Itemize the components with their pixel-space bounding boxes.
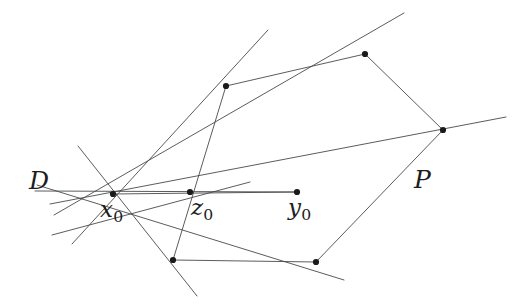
polygon-vertex-right-dot [440,127,446,133]
label-point-x0: x0 [100,198,123,221]
line-extra-lower-left [52,182,250,235]
label-y0-base: y [288,194,301,220]
pencil-of-lines-group [35,13,506,296]
line-through-bottomleft [78,146,197,296]
edge-bottomright-bottomleft [173,260,316,262]
line-horizontal-to-y0 [35,191,297,192]
diagram-svg [0,0,522,307]
polygon-vertex-top-right-dot [362,51,368,57]
edge-bottomleft-topleft [173,86,226,260]
line-through-topright [54,13,404,215]
polygon-vertex-top-left-dot [223,83,229,89]
label-polygon-P: P [414,167,431,192]
figure-canvas: D P x0 z0 y0 [0,0,522,307]
vertex-dots-group [110,51,446,265]
label-point-z0: z0 [191,196,213,219]
edge-topleft-topright [226,54,365,86]
label-x0-base: x [100,196,113,222]
polygon-edges-group [173,54,443,262]
label-point-y0: y0 [288,196,311,219]
label-x0-subscript: 0 [113,207,123,226]
label-domain-D: D [29,168,49,193]
label-z0-base: z [191,194,203,220]
label-y0-subscript: 0 [301,205,311,224]
edge-topright-right [365,54,443,130]
polygon-vertex-bottom-left-dot [170,257,176,263]
label-z0-subscript: 0 [203,205,213,224]
polygon-vertex-bottom-right-dot [313,259,319,265]
